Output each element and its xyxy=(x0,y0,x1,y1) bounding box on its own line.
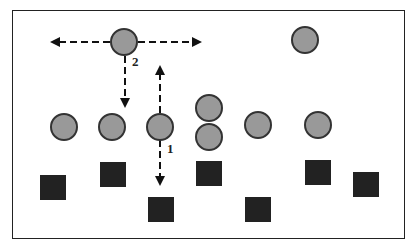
label-1: 1 xyxy=(167,141,174,156)
opponent-square xyxy=(353,172,379,197)
opponent-square xyxy=(305,160,331,185)
player-circle xyxy=(111,29,137,55)
player-circle xyxy=(99,114,125,140)
player-circle xyxy=(245,112,271,138)
player-circle xyxy=(305,112,331,138)
player-circle xyxy=(147,114,173,140)
opponent-square xyxy=(148,197,174,222)
player-circle xyxy=(292,27,318,53)
opponent-square xyxy=(40,175,66,200)
label-2: 2 xyxy=(132,54,139,69)
diagram-canvas: 2 1 xyxy=(0,0,412,244)
opponent-square xyxy=(245,197,271,222)
player-circle xyxy=(51,114,77,140)
opponent-square xyxy=(196,161,222,186)
player-circle xyxy=(196,95,222,121)
opponent-square xyxy=(100,162,126,187)
player-circle xyxy=(196,124,222,150)
